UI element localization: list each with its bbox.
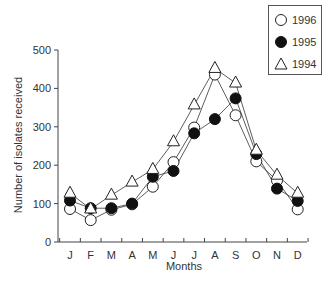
data-point-1995 [209, 114, 220, 125]
y-tick-label: 400 [33, 82, 51, 94]
x-tick-label: F [87, 249, 94, 261]
x-tick-label: M [107, 249, 116, 261]
y-tick-label: 200 [33, 159, 51, 171]
legend-label: 1995 [292, 36, 316, 48]
data-point-1995 [106, 203, 117, 214]
data-point-1994 [64, 186, 76, 197]
data-point-1995 [168, 165, 179, 176]
data-point-1994 [126, 175, 138, 186]
data-point-1995 [230, 93, 241, 104]
data-point-1994 [230, 76, 242, 87]
y-tick-label: 100 [33, 198, 51, 210]
y-tick-label: 500 [33, 44, 51, 56]
x-tick-label: J [67, 249, 73, 261]
open-triangle-icon [274, 57, 288, 71]
data-point-1994 [188, 98, 200, 109]
chart-series [64, 61, 304, 225]
y-tick-label: 0 [45, 236, 51, 248]
series-line-1994 [70, 68, 298, 209]
data-point-1995 [189, 128, 200, 139]
chart-legend: 1996 1995 1994 [268, 5, 322, 75]
data-point-1996 [85, 215, 96, 226]
x-tick-label: N [273, 249, 281, 261]
x-tick-label: D [294, 249, 302, 261]
data-point-1996 [230, 110, 241, 121]
x-tick-label: A [211, 249, 219, 261]
series-line-1996 [70, 75, 298, 221]
x-tick-label: M [148, 249, 157, 261]
x-axis-label: Months [166, 260, 203, 272]
data-point-1994 [105, 188, 117, 199]
open-circle-icon [274, 13, 288, 27]
data-point-1994 [209, 61, 221, 72]
data-point-1994 [292, 186, 304, 197]
data-point-1994 [168, 135, 180, 146]
data-point-1995 [272, 183, 283, 194]
y-tick-label: 300 [33, 121, 51, 133]
legend-item-1996: 1996 [274, 12, 316, 28]
data-point-1995 [127, 198, 138, 209]
data-point-1996 [147, 181, 158, 192]
series-line-1995 [70, 98, 298, 208]
x-tick-label: O [252, 249, 261, 261]
legend-label: 1994 [292, 58, 316, 70]
y-axis-label: Number of isolates received [12, 77, 24, 213]
legend-item-1994: 1994 [274, 56, 316, 72]
filled-circle-icon [274, 35, 288, 49]
chart-axes: 0100200300400500JFMAMJJASOND [33, 44, 308, 261]
x-tick-label: S [232, 249, 239, 261]
x-tick-label: A [128, 249, 136, 261]
data-point-1994 [250, 143, 262, 154]
legend-label: 1996 [292, 14, 316, 26]
legend-item-1995: 1995 [274, 34, 316, 50]
